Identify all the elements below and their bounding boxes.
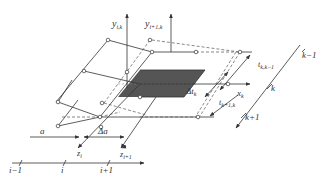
label-delta-a: Δa <box>97 126 108 136</box>
label-x-k: xk <box>236 88 244 99</box>
tick-i-plus-1: i+1 <box>100 165 113 175</box>
grid-diagram: yi,k yi+1,k xk zi zi+1 a Δa Δtk tk,k−1 t… <box>0 0 319 183</box>
tick-i-minus-1: i−1 <box>9 165 22 175</box>
label-y-i-k: yi,k <box>111 18 123 30</box>
label-z-i1: zi+1 <box>119 150 132 160</box>
tick-k: k <box>271 83 276 93</box>
label-t-k1-k: tk+1,k <box>219 98 235 108</box>
tick-k-plus-1: k+1 <box>245 112 260 122</box>
tick-k-minus-1: k−1 <box>302 50 317 60</box>
label-delta-t-k: Δtk <box>185 86 197 97</box>
tick-i: i <box>61 165 64 175</box>
label-t-k-k1: tk,k−1 <box>258 60 274 70</box>
label-z-i: zi <box>76 149 82 159</box>
label-y-i1-k: yi+1,k <box>144 18 163 30</box>
label-a: a <box>40 126 45 136</box>
